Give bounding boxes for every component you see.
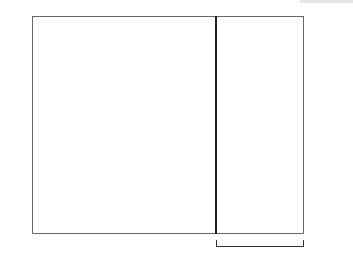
repeat-boundary-line <box>215 16 217 234</box>
top-edge-bar <box>300 0 353 3</box>
knitting-chart-grid <box>32 16 304 234</box>
repeat-bracket <box>216 240 304 247</box>
